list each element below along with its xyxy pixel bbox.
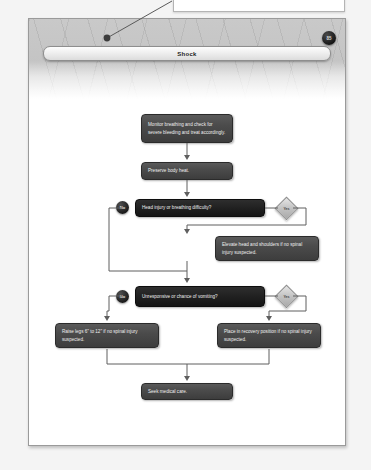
flow-connectors (29, 19, 345, 445)
document-page: Shock 85 (28, 18, 346, 446)
callout-box (173, 0, 345, 12)
